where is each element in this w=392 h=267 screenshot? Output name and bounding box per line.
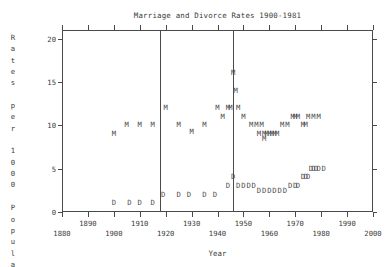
- x-tick-label: 1890: [73, 219, 103, 228]
- y-tick-mark-right: [373, 39, 377, 40]
- x-tick-mark-top: [347, 25, 348, 30]
- y-tick-mark: [58, 82, 62, 83]
- data-point-m: M: [176, 121, 182, 128]
- data-point-m: M: [235, 104, 241, 111]
- data-point-d: D: [150, 199, 156, 206]
- data-point-m: M: [202, 121, 208, 128]
- data-point-d: D: [225, 182, 231, 189]
- x-tick-mark-top: [166, 25, 167, 30]
- x-tick-mark: [373, 212, 374, 217]
- data-point-d: D: [176, 191, 182, 198]
- data-point-m: M: [124, 121, 130, 128]
- x-tick-mark-top: [192, 25, 193, 30]
- data-point-m: M: [233, 87, 239, 94]
- x-tick-mark-top: [295, 25, 296, 30]
- x-tick-mark-top: [218, 25, 219, 30]
- x-tick-label: 1950: [228, 219, 258, 228]
- data-point-m: M: [274, 130, 280, 137]
- data-point-m: M: [295, 113, 301, 120]
- x-tick-label: 1910: [125, 219, 155, 228]
- y-tick-mark: [58, 169, 62, 170]
- data-point-d: D: [202, 191, 208, 198]
- data-point-m: M: [261, 135, 267, 142]
- x-tick-mark: [347, 212, 348, 217]
- data-point-m: M: [215, 104, 221, 111]
- x-tick-mark: [88, 212, 89, 217]
- x-tick-label: 2000: [358, 229, 388, 238]
- data-point-d: D: [186, 191, 192, 198]
- x-tick-mark-top: [373, 25, 374, 30]
- data-point-m: M: [230, 69, 236, 76]
- data-point-d: D: [126, 199, 132, 206]
- wwi-line: [160, 30, 161, 212]
- wwii-line: [233, 30, 234, 212]
- data-point-d: D: [305, 173, 311, 180]
- x-tick-label: 1940: [203, 229, 233, 238]
- data-point-m: M: [150, 121, 156, 128]
- x-tick-label: 1970: [280, 219, 310, 228]
- x-tick-mark-top: [88, 25, 89, 30]
- data-point-d: D: [137, 199, 143, 206]
- data-point-m: M: [163, 104, 169, 111]
- x-tick-mark: [295, 212, 296, 217]
- x-tick-mark-top: [269, 25, 270, 30]
- x-tick-mark-top: [140, 25, 141, 30]
- y-tick-label: 20: [34, 35, 56, 44]
- x-tick-mark: [321, 212, 322, 217]
- x-tick-label: 1960: [254, 229, 284, 238]
- data-point-d: D: [212, 191, 218, 198]
- data-point-m: M: [189, 128, 195, 135]
- x-tick-label: 1920: [151, 229, 181, 238]
- data-point-m: M: [259, 121, 265, 128]
- y-tick-label: 0: [34, 208, 56, 217]
- y-tick-label: 15: [34, 78, 56, 87]
- x-tick-mark-top: [243, 25, 244, 30]
- data-point-d: D: [111, 199, 117, 206]
- data-point-m: M: [316, 113, 322, 120]
- x-tick-mark-top: [114, 25, 115, 30]
- data-point-m: M: [240, 113, 246, 120]
- x-tick-label: 1980: [306, 229, 336, 238]
- data-point-m: M: [303, 121, 309, 128]
- data-point-d: D: [295, 182, 301, 189]
- data-point-d: D: [230, 173, 236, 180]
- x-tick-mark: [62, 212, 63, 217]
- x-tick-mark: [218, 212, 219, 217]
- x-tick-mark: [243, 212, 244, 217]
- x-tick-label: 1900: [99, 229, 129, 238]
- data-point-m: M: [284, 121, 290, 128]
- data-point-m: M: [227, 104, 233, 111]
- data-point-m: M: [137, 121, 143, 128]
- plot-area: [62, 30, 373, 212]
- x-tick-label: 1990: [332, 219, 362, 228]
- y-tick-label: 10: [34, 121, 56, 130]
- x-tick-mark: [192, 212, 193, 217]
- data-point-m: M: [111, 130, 117, 137]
- y-tick-mark-right: [373, 125, 377, 126]
- x-tick-mark-top: [321, 25, 322, 30]
- x-tick-label: 1930: [177, 219, 207, 228]
- x-tick-mark: [140, 212, 141, 217]
- x-tick-mark: [269, 212, 270, 217]
- y-tick-mark-right: [373, 169, 377, 170]
- y-tick-mark: [58, 39, 62, 40]
- x-axis-label: Year: [62, 249, 373, 258]
- data-point-d: D: [160, 191, 166, 198]
- data-point-m: M: [220, 113, 226, 120]
- x-tick-label: 1880: [47, 229, 77, 238]
- chart-title: Marriage and Divorce Rates 1900-1981: [62, 11, 373, 20]
- y-tick-mark-right: [373, 82, 377, 83]
- x-tick-mark-top: [62, 25, 63, 30]
- y-tick-label: 5: [34, 165, 56, 174]
- data-point-d: D: [321, 165, 327, 172]
- y-axis-label: Rates.per.1000.Popula: [6, 32, 20, 267]
- chart-canvas: Marriage and Divorce Rates 1900-1981 Rat…: [0, 0, 392, 267]
- x-tick-mark: [114, 212, 115, 217]
- x-tick-mark: [166, 212, 167, 217]
- y-tick-mark: [58, 125, 62, 126]
